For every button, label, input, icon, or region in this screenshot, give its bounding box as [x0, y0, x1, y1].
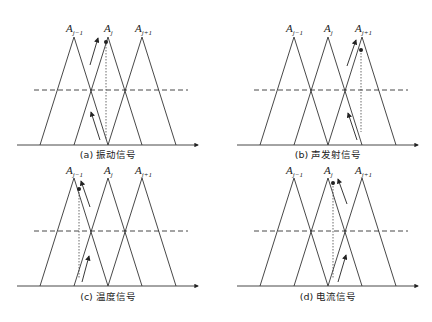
- label-c-j+1: Aj+1: [134, 164, 152, 179]
- membership-point: [104, 40, 108, 44]
- falling-arrow-icon: [348, 113, 357, 140]
- rising-arrow-icon: [82, 256, 89, 282]
- rising-arrow-icon: [90, 38, 98, 65]
- membership-point: [359, 48, 363, 52]
- label-d-j: Aj: [323, 164, 333, 179]
- panel-a: Aj−1 Aj Aj+1 (a) 振动信号: [17, 22, 198, 160]
- falling-arrow-icon: [338, 179, 347, 204]
- caption-a: (a) 振动信号: [80, 149, 136, 160]
- rising-arrow-icon: [347, 40, 356, 66]
- label-b-j+1: Aj+1: [354, 22, 372, 37]
- membership-point: [77, 187, 81, 191]
- caption-c: (c) 温度信号: [80, 291, 136, 302]
- caption-b: (b) 声发射信号: [295, 149, 361, 160]
- panel-c: Aj−1 Aj Aj+1 (c) 温度信号: [17, 164, 198, 302]
- label-d-j-1: Aj−1: [285, 164, 303, 179]
- membership-point: [331, 181, 335, 185]
- rising-arrow-icon: [338, 255, 346, 282]
- label-a-j+1: Aj+1: [134, 22, 152, 37]
- label-d-j+1: Aj+1: [354, 164, 372, 179]
- panel-d: Aj−1 Aj Aj+1 (d) 电流信号: [237, 164, 418, 302]
- label-a-j-1: Aj−1: [65, 22, 83, 37]
- label-b-j-1: Aj−1: [285, 22, 303, 37]
- label-c-j-1: Aj−1: [65, 164, 83, 179]
- caption-d: (d) 电流信号: [300, 291, 356, 302]
- label-c-j: Aj: [103, 164, 113, 179]
- membership-function-figure: Aj−1 Aj Aj+1 (a) 振动信号 Aj−1 Aj Aj+1 (b) 声…: [0, 0, 432, 322]
- label-b-j: Aj: [323, 22, 333, 37]
- panel-b: Aj−1 Aj Aj+1 (b) 声发射信号: [237, 22, 418, 160]
- label-a-j: Aj: [103, 22, 113, 37]
